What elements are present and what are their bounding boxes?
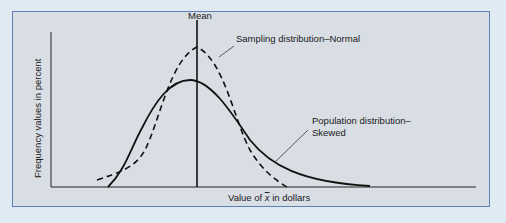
- sampling-leader-line: [219, 46, 234, 57]
- sampling-label: Sampling distribution–Normal: [236, 33, 360, 44]
- sampling-distribution-curve: [97, 47, 287, 187]
- x-axis-label: Value of x in dollars: [228, 192, 310, 203]
- x-axis-label-prefix: Value of: [228, 192, 265, 203]
- population-label-line2: Skewed: [312, 127, 346, 138]
- mean-label: Mean: [188, 10, 212, 21]
- y-axis-label: Frequency values in percent: [32, 58, 43, 178]
- population-leader-line: [274, 130, 308, 163]
- x-axis-label-suffix: in dollars: [270, 192, 311, 203]
- distribution-chart: Mean Sampling distribution–Normal Popula…: [0, 0, 506, 223]
- population-label-line1: Population distribution–: [312, 115, 411, 126]
